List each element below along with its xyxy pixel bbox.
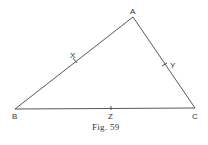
label-a: A — [130, 7, 136, 16]
label-b: B — [12, 112, 17, 121]
triangle-diagram: A B C X Y Z Fig. 59 — [0, 0, 208, 145]
side-bc — [15, 108, 195, 109]
side-ac — [133, 17, 195, 108]
figure-caption: Fig. 59 — [92, 122, 120, 132]
label-x: X — [70, 51, 76, 60]
label-c: C — [192, 112, 198, 121]
side-ab — [15, 17, 133, 109]
label-y: Y — [170, 61, 176, 70]
label-z: Z — [108, 112, 113, 121]
